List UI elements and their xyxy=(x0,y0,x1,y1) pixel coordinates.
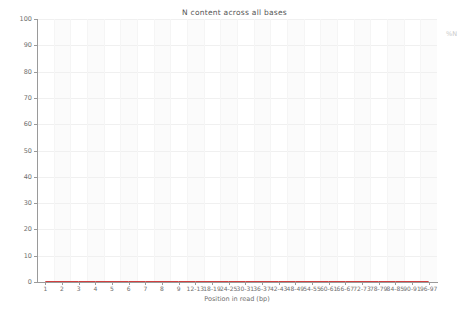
x-axis-line xyxy=(37,282,438,283)
x-tick-label: 12-13 xyxy=(187,285,204,292)
y-tick-label: 0 xyxy=(2,278,32,286)
y-tick-label: 80 xyxy=(2,68,32,76)
x-tick-label: 7 xyxy=(143,285,147,292)
y-tick-mark xyxy=(34,19,37,20)
chart-title: N content across all bases xyxy=(0,8,469,17)
y-tick-mark xyxy=(34,98,37,99)
x-tick-label: 42-43 xyxy=(270,285,287,292)
legend-percent-n: %N xyxy=(446,30,457,38)
y-tick-label: 60 xyxy=(2,120,32,128)
y-tick-mark xyxy=(34,282,37,283)
plot-area xyxy=(37,19,437,282)
y-tick-label: 90 xyxy=(2,41,32,49)
x-tick-label: 96-97 xyxy=(420,285,437,292)
x-tick-label: 60-61 xyxy=(320,285,337,292)
x-tick-label: 72-73 xyxy=(353,285,370,292)
x-tick-label: 8 xyxy=(160,285,164,292)
x-tick-label: 90-91 xyxy=(403,285,420,292)
x-axis-title: Position in read (bp) xyxy=(37,295,437,303)
y-tick-label: 30 xyxy=(2,199,32,207)
y-tick-mark xyxy=(34,177,37,178)
y-tick-label: 50 xyxy=(2,147,32,155)
x-tick-label: 6 xyxy=(127,285,131,292)
x-tick-label: 66-67 xyxy=(337,285,354,292)
x-tick-label: 78-79 xyxy=(370,285,387,292)
x-tick-label: 1 xyxy=(43,285,47,292)
y-axis-line xyxy=(37,19,38,283)
x-tick-label: 48-49 xyxy=(287,285,304,292)
y-tick-mark xyxy=(34,203,37,204)
x-tick-label: 24-25 xyxy=(220,285,237,292)
x-tick-label: 54-55 xyxy=(303,285,320,292)
n-content-chart: N content across all bases 0102030405060… xyxy=(0,0,469,315)
x-tick-label: 3 xyxy=(77,285,81,292)
x-tick-label: 36-37 xyxy=(253,285,270,292)
x-tick-label: 9 xyxy=(177,285,181,292)
x-tick-label: 2 xyxy=(60,285,64,292)
y-tick-mark xyxy=(34,72,37,73)
y-tick-label: 10 xyxy=(2,252,32,260)
y-tick-mark xyxy=(34,45,37,46)
y-tick-mark xyxy=(34,256,37,257)
y-tick-mark xyxy=(34,229,37,230)
y-tick-label: 20 xyxy=(2,225,32,233)
x-tick-label: 84-85 xyxy=(387,285,404,292)
x-tick-label: 4 xyxy=(93,285,97,292)
y-tick-label: 70 xyxy=(2,94,32,102)
y-tick-mark xyxy=(34,151,37,152)
x-tick-label: 5 xyxy=(110,285,114,292)
x-tick-label: 18-19 xyxy=(203,285,220,292)
y-tick-label: 40 xyxy=(2,173,32,181)
y-tick-label: 100 xyxy=(2,15,32,23)
y-tick-mark xyxy=(34,124,37,125)
series-n xyxy=(37,19,437,282)
x-tick-label: 30-31 xyxy=(237,285,254,292)
